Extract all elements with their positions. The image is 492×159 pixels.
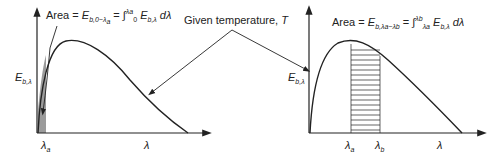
right-x-tick-lambda-a: λa [345,140,354,153]
left-y-axis-label: Eb,λ [15,72,32,85]
temperature-pointers [151,30,307,93]
right-x-tick-lambda-b: λb [375,140,384,153]
right-x-axis-label: λ [437,140,442,151]
right-area-label: Area = Eb,λa−λb = ∫λbλa Eb,λ dλ [332,15,464,30]
left-x-axis-label: λ [144,140,149,151]
left-plot [37,12,207,133]
right-planck-curve [310,40,462,133]
right-y-axis-label: Eb,λ [288,72,305,85]
left-area-label: Area = Eb,0−λa = ∫λa0 Eb,λ dλ [46,8,171,25]
left-x-tick-lambda-a: λa [41,140,50,153]
given-temperature-label: Given temperature, T [184,15,288,26]
left-planck-curve [38,40,188,133]
right-hatched-area [351,44,380,133]
